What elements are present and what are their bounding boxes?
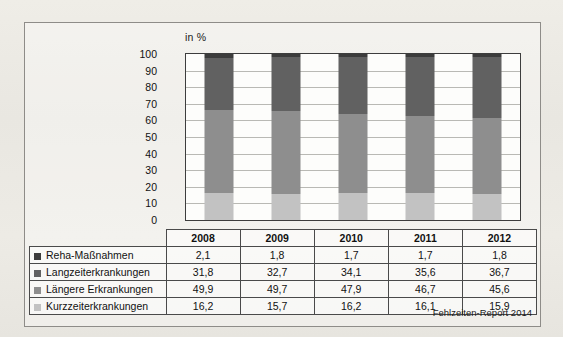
bar-segment-l-ngere-erkrankungen-2012 <box>472 118 501 194</box>
table-header-2011: 2011 <box>388 230 462 247</box>
bar-segment-l-ngere-erkrankungen-2009 <box>272 111 301 194</box>
bar-segment-kurzzeiterkrankungen-2009 <box>272 194 301 220</box>
y-axis-tick-labels: 0102030405060708090100 <box>139 53 183 221</box>
table-cell: 1,7 <box>388 247 462 264</box>
table-row: Reha-Maßnahmen2,11,81,71,71,8 <box>30 247 537 264</box>
table-body: Reha-Maßnahmen2,11,81,71,71,8Langzeiterk… <box>30 247 537 315</box>
table-cell: 15,7 <box>240 298 314 315</box>
table-cell: 16,2 <box>314 298 388 315</box>
table-cell: 49,9 <box>166 281 240 298</box>
y-tick-30: 30 <box>145 164 157 176</box>
y-tick-80: 80 <box>145 81 157 93</box>
bar-segment-kurzzeiterkrankungen-2010 <box>338 193 367 220</box>
stacked-bar-2009[interactable] <box>272 54 301 220</box>
bar-segment-l-ngere-erkrankungen-2010 <box>338 114 367 194</box>
y-tick-10: 10 <box>145 197 157 209</box>
table-cell: 34,1 <box>314 264 388 281</box>
bar-segment-kurzzeiterkrankungen-2011 <box>405 193 434 220</box>
y-tick-0: 0 <box>151 214 157 226</box>
legend-swatch-icon <box>34 287 41 294</box>
table-header-2009: 2009 <box>240 230 314 247</box>
bar-column-2009 <box>253 54 320 220</box>
y-tick-70: 70 <box>145 98 157 110</box>
stacked-bar-2012[interactable] <box>472 54 501 220</box>
bar-segment-kurzzeiterkrankungen-2012 <box>472 194 501 220</box>
y-tick-20: 20 <box>145 181 157 193</box>
bar-column-2008 <box>186 54 253 220</box>
table-cell: 46,7 <box>388 281 462 298</box>
y-tick-50: 50 <box>145 131 157 143</box>
legend-label: Kurzzeiterkrankungen <box>46 300 148 312</box>
bar-segment-langzeiterkrankungen-2009 <box>272 57 301 111</box>
table-cell: 45,6 <box>462 281 536 298</box>
y-tick-40: 40 <box>145 148 157 160</box>
table-cell: 32,7 <box>240 264 314 281</box>
data-table: 20082009201020112012 Reha-Maßnahmen2,11,… <box>29 229 537 315</box>
legend-item-langzeiterkrankungen[interactable]: Langzeiterkrankungen <box>30 264 167 281</box>
legend-label: Langzeiterkrankungen <box>46 266 150 278</box>
table-cell: 1,8 <box>462 247 536 264</box>
y-tick-100: 100 <box>139 48 157 60</box>
bar-segment-langzeiterkrankungen-2012 <box>472 57 501 118</box>
table-cell: 47,9 <box>314 281 388 298</box>
legend-swatch-icon <box>34 304 41 311</box>
y-tick-60: 60 <box>145 114 157 126</box>
table-header-2012: 2012 <box>462 230 536 247</box>
stacked-bar-2011[interactable] <box>405 54 434 220</box>
bar-segment-kurzzeiterkrankungen-2008 <box>205 193 234 220</box>
legend-swatch-icon <box>34 270 41 277</box>
values-table: 20082009201020112012 Reha-Maßnahmen2,11,… <box>29 229 537 315</box>
table-cell: 36,7 <box>462 264 536 281</box>
stacked-bar-2008[interactable] <box>205 54 234 220</box>
bar-column-2012 <box>453 54 520 220</box>
source-caption: Fehlzeiten-Report 2014 <box>433 307 532 318</box>
legend-label: Längere Erkrankungen <box>46 283 153 295</box>
plot-area <box>185 53 521 221</box>
figure-frame: in % 0102030405060708090100 200820092010… <box>24 22 541 327</box>
table-cell: 1,8 <box>240 247 314 264</box>
bar-segment-l-ngere-erkrankungen-2008 <box>205 110 234 193</box>
bar-segment-langzeiterkrankungen-2008 <box>205 58 234 111</box>
table-cell: 1,7 <box>314 247 388 264</box>
legend-item-kurzzeiterkrankungen[interactable]: Kurzzeiterkrankungen <box>30 298 167 315</box>
stacked-bar-2010[interactable] <box>338 54 367 220</box>
table-header-row: 20082009201020112012 <box>30 230 537 247</box>
stacked-bar-chart: in % 0102030405060708090100 <box>161 31 521 236</box>
table-row: Längere Erkrankungen49,949,747,946,745,6 <box>30 281 537 298</box>
bar-column-2011 <box>386 54 453 220</box>
table-cell: 2,1 <box>166 247 240 264</box>
legend-item-l-ngere-erkrankungen[interactable]: Längere Erkrankungen <box>30 281 167 298</box>
y-axis-unit-label: in % <box>185 31 206 43</box>
bar-segment-langzeiterkrankungen-2011 <box>405 57 434 116</box>
table-header-2010: 2010 <box>314 230 388 247</box>
table-row: Langzeiterkrankungen31,832,734,135,636,7 <box>30 264 537 281</box>
table-cell: 35,6 <box>388 264 462 281</box>
bar-segment-langzeiterkrankungen-2010 <box>338 57 367 114</box>
y-tick-90: 90 <box>145 65 157 77</box>
table-header-2008: 2008 <box>166 230 240 247</box>
bar-segment-l-ngere-erkrankungen-2011 <box>405 116 434 193</box>
table-cell: 31,8 <box>166 264 240 281</box>
legend-item-reha-ma-nahmen[interactable]: Reha-Maßnahmen <box>30 247 167 264</box>
legend-swatch-icon <box>34 253 41 260</box>
table-cell: 16,2 <box>166 298 240 315</box>
table-cell: 49,7 <box>240 281 314 298</box>
table-corner-cell <box>30 230 167 247</box>
legend-label: Reha-Maßnahmen <box>46 249 134 261</box>
bar-column-2010 <box>320 54 387 220</box>
